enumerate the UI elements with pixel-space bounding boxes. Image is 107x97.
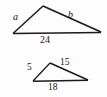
upper-triangle-base — [13, 33, 101, 34]
lower-triangle-label-base: 18 — [48, 83, 58, 93]
upper-triangle-label-a: a — [13, 12, 18, 22]
upper-triangle-label-base: 24 — [40, 35, 50, 45]
lower-triangle-label-right: 15 — [60, 58, 70, 68]
lower-triangle-label-left: 5 — [27, 63, 32, 73]
lower-triangle-base — [33, 80, 88, 81]
geometry-figure: a b 24 5 15 18 — [0, 0, 107, 97]
upper-triangle-label-b: b — [68, 10, 73, 20]
lower-triangle-side-5 — [33, 63, 50, 81]
upper-triangle-shape — [13, 6, 101, 34]
